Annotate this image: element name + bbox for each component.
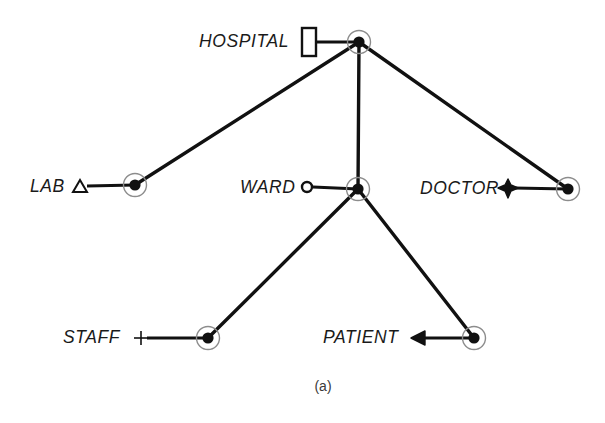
figure-caption: (a) bbox=[314, 378, 331, 394]
edge-hospital-lab bbox=[135, 42, 359, 185]
stub-ward bbox=[313, 187, 358, 189]
circle-outline-icon bbox=[302, 182, 312, 192]
node-label-staff: STAFF bbox=[63, 327, 120, 348]
node-label-ward: WARD bbox=[240, 177, 296, 198]
edge-hospital-doctor bbox=[359, 42, 568, 189]
stub-doctor bbox=[514, 188, 568, 189]
triangle-outline-icon bbox=[73, 180, 87, 192]
node-label-lab: LAB bbox=[30, 176, 65, 197]
node-label-doctor: DOCTOR bbox=[420, 178, 499, 199]
edge-ward-patient bbox=[358, 189, 474, 338]
graph-svg bbox=[0, 0, 605, 423]
edge-ward-staff bbox=[208, 189, 358, 338]
stub-lab bbox=[87, 185, 135, 186]
node-label-patient: PATIENT bbox=[323, 327, 399, 348]
edge-hospital-ward bbox=[358, 42, 359, 189]
rectangle-icon bbox=[302, 28, 316, 56]
diagram-canvas: HOSPITAL LAB WARD DOCTOR STAFF PATIENT (… bbox=[0, 0, 605, 423]
filled-triangle-icon bbox=[411, 331, 425, 345]
star-icon bbox=[498, 179, 518, 198]
node-label-hospital: HOSPITAL bbox=[199, 31, 289, 52]
plus-icon bbox=[134, 331, 148, 345]
